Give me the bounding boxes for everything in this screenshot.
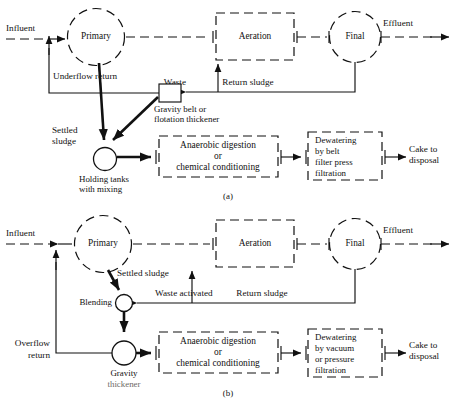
final-clarifier-a: Final bbox=[330, 12, 381, 63]
dewatering-label-line2-a: by belt bbox=[315, 146, 340, 156]
digestion-label-line1-b: Anaerobic digestion bbox=[180, 336, 256, 346]
panel-b: Influent Primary Aeration bbox=[6, 216, 449, 399]
thickened-sludge-arrow-a bbox=[113, 97, 158, 140]
final-clarifier-b: Final bbox=[330, 219, 381, 270]
dewatering-label-line4-a: filtration bbox=[315, 168, 347, 178]
effluent-label-a: Effluent bbox=[383, 18, 413, 28]
primary-clarifier-b: Primary bbox=[75, 216, 132, 273]
aeration-basin-b: Aeration bbox=[216, 220, 294, 267]
holding-tank-circle-a bbox=[94, 148, 117, 171]
dewatering-label-line4-b: filtration bbox=[315, 365, 347, 375]
gravity-thickener-label-line2-b: thickener bbox=[107, 379, 140, 389]
cake-disposal-flow-b: Cake to disposal bbox=[385, 340, 440, 361]
digestion-to-dewatering-a bbox=[281, 150, 306, 164]
blending-label-b: Blending bbox=[79, 297, 112, 307]
holding-tank-a: Holding tanks with mixing bbox=[79, 148, 130, 195]
cake-disposal-flow-a: Cake to disposal bbox=[385, 144, 440, 165]
return-sludge-label-a: Return sludge bbox=[222, 77, 273, 87]
primary-to-aeration-a bbox=[126, 31, 213, 43]
gravity-thickener-label-line1-b: Gravity bbox=[110, 368, 138, 378]
wastewater-flow-figure: Influent Primary Aeration bbox=[0, 0, 455, 407]
aeration-to-final-b bbox=[297, 238, 329, 250]
digestion-label-line2-b: or bbox=[214, 347, 223, 357]
dewatering-label-line2-b: by vacuum bbox=[315, 343, 354, 353]
cake-label-line1-b: Cake to bbox=[409, 340, 438, 350]
primary-to-aeration-b bbox=[133, 238, 213, 250]
gravity-thickener-circle-b bbox=[112, 341, 136, 365]
influent-label-b: Influent bbox=[6, 228, 36, 238]
dewatering-unit-a: Dewatering by belt filter press filtrati… bbox=[308, 132, 382, 180]
settled-sludge-flow-b: Settled sludge bbox=[108, 268, 169, 290]
effluent-flow-a: Effluent bbox=[381, 18, 449, 43]
effluent-flow-b: Effluent bbox=[381, 225, 449, 250]
digestion-unit-a: Anaerobic digestion or chemical conditio… bbox=[159, 136, 278, 177]
underflow-label-a: Underflow return bbox=[53, 71, 117, 81]
effluent-label-b: Effluent bbox=[383, 225, 413, 235]
return-sludge-flow-a: Return sludge bbox=[186, 62, 355, 92]
aeration-basin-a: Aeration bbox=[216, 13, 294, 60]
thickener-box-a bbox=[159, 84, 181, 102]
influent-label-a: Influent bbox=[6, 23, 36, 33]
final-label-b: Final bbox=[345, 238, 365, 248]
blending-tank-b: Blending bbox=[79, 295, 132, 312]
dewatering-label-line3-b: or pressure bbox=[315, 354, 354, 364]
primary-label-a: Primary bbox=[81, 31, 111, 41]
digestion-to-dewatering-b bbox=[281, 346, 306, 360]
aeration-to-final-a bbox=[297, 31, 329, 43]
settled-sludge-label-line2-a: sludge bbox=[52, 136, 76, 146]
overflow-label-line2-b: return bbox=[28, 350, 50, 360]
settled-sludge-label-b: Settled sludge bbox=[117, 268, 169, 278]
thickener-label-line1-a: Gravity belt or bbox=[154, 104, 206, 114]
aeration-label-a: Aeration bbox=[239, 31, 272, 41]
holding-tank-label-line2-a: with mixing bbox=[79, 184, 123, 194]
panel-a: Influent Primary Aeration bbox=[6, 9, 449, 202]
waste-activated-label-b: Waste activated bbox=[155, 288, 213, 298]
blending-circle-b bbox=[116, 295, 133, 312]
final-label-a: Final bbox=[345, 31, 365, 41]
thickener-to-digestion-b bbox=[136, 346, 156, 360]
digestion-unit-b: Anaerobic digestion or chemical conditio… bbox=[159, 332, 278, 373]
thickener-unit-a: Gravity belt or flotation thickener bbox=[154, 84, 219, 124]
dewatering-label-line1-a: Dewatering bbox=[315, 135, 357, 145]
overflow-label-line1-b: Overflow bbox=[15, 338, 51, 348]
primary-label-b: Primary bbox=[88, 238, 118, 248]
figure-canvas: Influent Primary Aeration bbox=[0, 0, 455, 407]
digestion-label-line3-a: chemical conditioning bbox=[176, 162, 260, 172]
panel-caption-a: (a) bbox=[223, 191, 233, 201]
cake-label-line2-b: disposal bbox=[409, 351, 440, 361]
thickened-sludge-flow-a bbox=[113, 97, 158, 140]
thickener-label-line2-a: flotation thickener bbox=[154, 114, 219, 124]
digestion-label-line1-a: Anaerobic digestion bbox=[180, 140, 256, 150]
return-sludge-label-b: Return sludge bbox=[236, 288, 287, 298]
gravity-thickener-b: Gravity thickener bbox=[107, 341, 140, 389]
panel-caption-b: (b) bbox=[223, 388, 233, 398]
influent-flow-a: Influent bbox=[6, 23, 65, 39]
influent-flow-b: Influent bbox=[6, 228, 72, 244]
aeration-label-b: Aeration bbox=[239, 238, 272, 248]
digestion-label-line2-a: or bbox=[214, 151, 223, 161]
dewatering-label-line3-a: filter press bbox=[315, 157, 353, 167]
cake-label-line1-a: Cake to bbox=[409, 144, 438, 154]
holding-to-digestion-a bbox=[117, 150, 156, 164]
overflow-return-line-b bbox=[56, 262, 112, 353]
dewatering-unit-b: Dewatering by vacuum or pressure filtrat… bbox=[308, 329, 382, 377]
cake-label-line2-a: disposal bbox=[409, 155, 440, 165]
dewatering-label-line1-b: Dewatering bbox=[315, 332, 357, 342]
settled-sludge-label-line1-a: Settled bbox=[52, 125, 78, 135]
digestion-label-line3-b: chemical conditioning bbox=[176, 358, 260, 368]
primary-clarifier-a: Primary bbox=[68, 9, 125, 66]
holding-tank-label-line1-a: Holding tanks bbox=[79, 174, 130, 184]
